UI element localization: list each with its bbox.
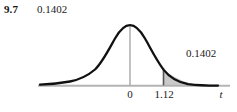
x-tick-label-critical: 1.12 — [146, 88, 182, 100]
answer-figure: 9.7 0.1402 0 1.12 t 0.1402 — [0, 0, 237, 112]
answer-value: 0.1402 — [37, 3, 67, 15]
shaded-area-label: 0.1402 — [186, 47, 216, 59]
answer-number: 9.7 — [4, 3, 18, 15]
x-tick-label-0: 0 — [120, 88, 140, 100]
x-axis-variable-label: t — [214, 88, 228, 100]
